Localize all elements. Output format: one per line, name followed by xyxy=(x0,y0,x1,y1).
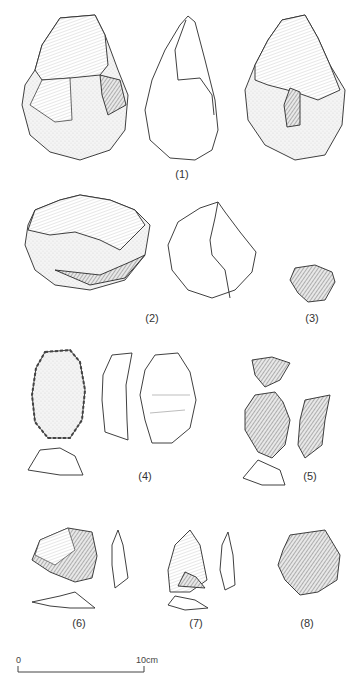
specimen-7-cross-section xyxy=(168,596,208,610)
specimen-7-face xyxy=(168,530,207,592)
specimen-5-face xyxy=(245,392,290,458)
specimen-2-outline xyxy=(168,202,256,298)
specimen-4-ventral xyxy=(140,353,196,443)
scale-bar-start-label: 0 xyxy=(16,655,21,665)
specimen-6-profile xyxy=(112,530,128,588)
artifact-drawings xyxy=(0,0,364,691)
specimen-4-cross-section xyxy=(28,448,83,475)
specimen-6-cross-section xyxy=(32,592,95,608)
specimen-1-label: (1) xyxy=(175,168,188,180)
specimen-5-cross-section xyxy=(243,460,285,485)
specimen-2-face xyxy=(25,195,150,290)
specimen-2-label: (2) xyxy=(145,312,158,324)
specimen-6-face xyxy=(32,528,97,582)
scale-bar-end-label: 10cm xyxy=(136,655,158,665)
specimen-5-profile xyxy=(298,395,330,458)
scale-bar xyxy=(18,666,144,672)
specimen-3-face xyxy=(290,265,335,302)
artifact-plate: (1) (2) (3) (4) (5) (6) (7) (8) 0 10cm xyxy=(0,0,364,691)
specimen-7-label: (7) xyxy=(189,617,202,629)
specimen-5-top xyxy=(252,357,290,387)
specimen-4-label: (4) xyxy=(138,470,151,482)
specimen-3-label: (3) xyxy=(305,312,318,324)
specimen-8-face xyxy=(278,530,340,595)
specimen-1-outline xyxy=(145,16,218,160)
specimen-7-profile xyxy=(220,532,235,590)
specimen-4-profile xyxy=(102,353,132,440)
specimen-1-dorsal xyxy=(22,15,128,160)
specimen-4-dorsal xyxy=(32,350,85,438)
specimen-6-label: (6) xyxy=(72,617,85,629)
specimen-1-ventral xyxy=(245,15,345,160)
specimen-5-label: (5) xyxy=(303,470,316,482)
specimen-8-label: (8) xyxy=(300,617,313,629)
